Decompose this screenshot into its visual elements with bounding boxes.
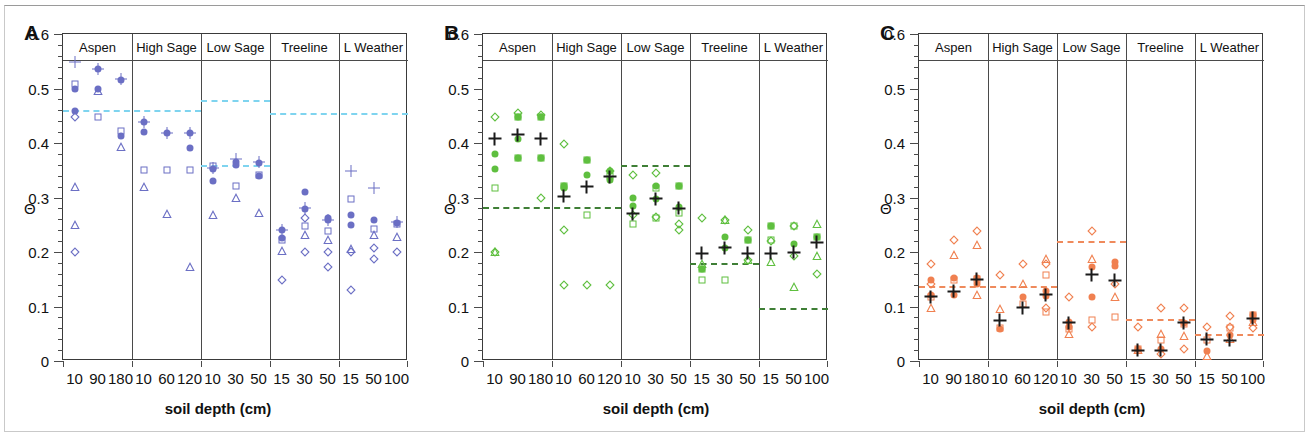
x-tick-label: 50 <box>739 371 756 386</box>
y-tick-mark <box>474 89 483 90</box>
data-point-plus <box>1200 333 1213 346</box>
y-minor-tick <box>914 263 919 264</box>
data-point-triangle <box>1064 329 1073 338</box>
y-minor-tick <box>478 241 483 242</box>
data-point-triangle <box>949 250 958 259</box>
data-point-triangle <box>789 283 798 292</box>
reference-line <box>621 165 690 167</box>
data-point-diamond <box>651 168 660 177</box>
y-minor-tick <box>914 230 919 231</box>
data-point-diamond <box>720 216 729 225</box>
x-tick-mark <box>552 361 553 367</box>
data-point-square <box>232 182 239 189</box>
data-point-diamond <box>812 269 821 278</box>
data-point-plus <box>230 153 242 165</box>
y-tick-label: 0.1 <box>861 299 905 314</box>
y-tick-label: 0.2 <box>425 245 469 260</box>
y-tick-label: 0.4 <box>425 136 469 151</box>
y-minor-tick <box>478 296 483 297</box>
y-tick-label: 0 <box>425 354 469 369</box>
y-minor-tick <box>58 154 63 155</box>
x-tick-label: 120 <box>1033 371 1058 386</box>
data-point-diamond <box>559 140 568 149</box>
data-point-square <box>491 184 498 191</box>
x-tick-label: 10 <box>204 371 221 386</box>
y-minor-tick <box>58 176 63 177</box>
panel-b: B Θ 00.10.20.30.40.50.6AspenHigh SageLow… <box>438 0 874 433</box>
y-tick-label: 0 <box>861 354 905 369</box>
data-point-plus <box>92 63 104 75</box>
data-point-diamond <box>972 227 981 236</box>
y-minor-tick <box>914 317 919 318</box>
data-point-diamond <box>70 248 79 257</box>
x-tick-label: 10 <box>624 371 641 386</box>
group-header-underline <box>63 60 408 61</box>
y-tick-mark <box>474 361 483 362</box>
y-minor-tick <box>478 176 483 177</box>
y-tick-label: 0.1 <box>425 299 469 314</box>
y-minor-tick <box>478 317 483 318</box>
group-separator <box>270 34 271 359</box>
data-point-diamond <box>1087 323 1096 332</box>
data-point-plus <box>649 192 662 205</box>
x-tick-mark <box>339 361 340 367</box>
data-point-plus <box>1108 274 1121 287</box>
data-point-triangle <box>995 305 1004 314</box>
data-point-triangle <box>972 241 981 250</box>
group-label-high-sage: High Sage <box>136 41 197 54</box>
data-point-circle <box>491 166 498 173</box>
data-point-square <box>301 222 308 229</box>
data-point-square <box>652 184 659 191</box>
data-point-plus <box>1246 312 1259 325</box>
data-point-square <box>583 157 590 164</box>
panel-c-plot-area: 00.10.20.30.40.50.6AspenHigh SageLow Sag… <box>918 33 1263 360</box>
x-tick-label: 10 <box>135 371 152 386</box>
data-point-plus <box>1131 344 1144 357</box>
reference-line <box>919 286 1057 288</box>
y-minor-tick <box>478 328 483 329</box>
data-point-diamond <box>949 236 958 245</box>
y-minor-tick <box>914 110 919 111</box>
data-point-triangle <box>116 143 125 152</box>
data-point-plus <box>1039 288 1052 301</box>
x-tick-label: 90 <box>89 371 106 386</box>
x-tick-mark <box>988 361 989 367</box>
y-minor-tick <box>478 56 483 57</box>
x-tick-label: 15 <box>1129 371 1146 386</box>
data-point-plus <box>488 132 501 145</box>
data-point-diamond <box>323 248 332 257</box>
data-point-triangle <box>392 232 401 241</box>
y-tick-label: 0.3 <box>425 190 469 205</box>
group-separator <box>339 34 340 359</box>
group-label-treeline: Treeline <box>281 41 327 54</box>
data-point-diamond <box>513 109 522 118</box>
y-minor-tick <box>478 110 483 111</box>
group-separator <box>552 34 553 359</box>
y-minor-tick <box>914 274 919 275</box>
group-separator <box>621 34 622 359</box>
data-point-triangle <box>972 290 981 299</box>
x-tick-label: 10 <box>66 371 83 386</box>
x-tick-mark <box>621 361 622 367</box>
data-point-plus <box>603 170 616 183</box>
data-point-circle <box>347 221 354 228</box>
y-minor-tick <box>58 219 63 220</box>
data-point-triangle <box>1179 332 1188 341</box>
data-point-circle <box>209 178 216 185</box>
panel-a-plot-area: 00.10.20.30.40.50.6AspenHigh SageLow Sag… <box>62 33 407 360</box>
x-tick-label: 10 <box>991 371 1008 386</box>
group-separator <box>988 34 989 359</box>
x-tick-label: 60 <box>578 371 595 386</box>
data-point-plus <box>322 214 334 226</box>
data-point-square <box>255 171 262 178</box>
y-minor-tick <box>478 121 483 122</box>
x-tick-label: 50 <box>365 371 382 386</box>
data-point-square <box>278 237 285 244</box>
y-minor-tick <box>58 45 63 46</box>
data-point-plus <box>718 241 731 254</box>
data-point-square <box>767 222 774 229</box>
y-minor-tick <box>478 350 483 351</box>
x-tick-mark <box>63 361 64 367</box>
data-point-circle <box>301 189 308 196</box>
y-tick-label: 0.4 <box>861 136 905 151</box>
